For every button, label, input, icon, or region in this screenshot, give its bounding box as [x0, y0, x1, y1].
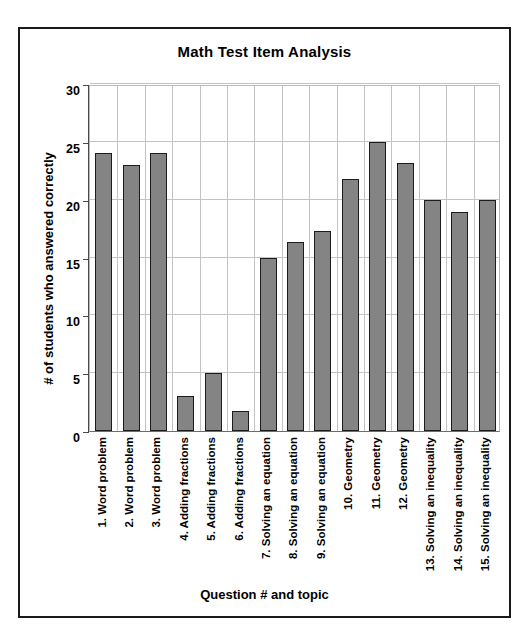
- vertical-gridline: [254, 86, 255, 431]
- vertical-gridline: [282, 86, 283, 431]
- bar: [342, 179, 359, 431]
- chart-figure: Math Test Item Analysis # of students wh…: [18, 27, 511, 618]
- x-tick-label: 3. Word problem: [152, 437, 164, 528]
- x-tick: 10. Geometry: [336, 437, 363, 607]
- bar: [451, 212, 468, 431]
- vertical-gridline: [227, 86, 228, 431]
- x-tick: 1. Word problem: [89, 437, 116, 607]
- bar: [260, 258, 277, 432]
- x-tick: 8. Solving an equation: [281, 437, 308, 607]
- vertical-gridline: [391, 86, 392, 431]
- vertical-gridline: [309, 86, 310, 431]
- x-tick-label: 14. Solving an inequality: [453, 437, 465, 571]
- x-tick: 2. Word problem: [116, 437, 143, 607]
- plot-area: [89, 85, 500, 432]
- vertical-gridline: [364, 86, 365, 431]
- x-tick-label: 8. Solving an equation: [289, 437, 301, 559]
- bar: [369, 142, 386, 431]
- x-tick: 15. Solving an inequality: [473, 437, 500, 607]
- vertical-gridline: [172, 86, 173, 431]
- y-tick-label: 0: [40, 432, 80, 445]
- y-tick-mark: [83, 432, 89, 433]
- bar: [232, 411, 249, 431]
- x-tick-label: 13. Solving an inequality: [426, 437, 438, 571]
- bar: [205, 373, 222, 431]
- y-tick-label: 5: [40, 374, 80, 387]
- x-tick-label: 10. Geometry: [344, 437, 356, 510]
- x-tick: 13. Solving an inequality: [418, 437, 445, 607]
- y-tick-label: 25: [40, 143, 80, 156]
- x-tick-label: 7. Solving an equation: [261, 437, 273, 559]
- x-tick: 9. Solving an equation: [308, 437, 335, 607]
- x-tick-label: 9. Solving an equation: [316, 437, 328, 559]
- y-tick-label: 30: [40, 85, 80, 98]
- bar: [314, 231, 331, 431]
- x-tick: 3. Word problem: [144, 437, 171, 607]
- gridline: [90, 141, 499, 142]
- y-tick-label: 10: [40, 316, 80, 329]
- x-tick-label: 15. Solving an inequality: [481, 437, 493, 571]
- x-tick: 11. Geometry: [363, 437, 390, 607]
- x-tick: 14. Solving an inequality: [445, 437, 472, 607]
- x-tick-label: 1. Word problem: [97, 437, 109, 528]
- x-tick-label: 11. Geometry: [371, 437, 383, 509]
- bar: [479, 200, 496, 431]
- vertical-gridline: [474, 86, 475, 431]
- x-tick: 6. Adding fractions: [226, 437, 253, 607]
- bar: [177, 396, 194, 431]
- x-tick: 12. Geometry: [390, 437, 417, 607]
- vertical-gridline: [419, 86, 420, 431]
- x-tick-label: 5. Adding fractions: [207, 437, 219, 541]
- x-tick-label: 2. Word problem: [124, 437, 136, 528]
- bar: [150, 153, 167, 431]
- gridline: [90, 83, 499, 84]
- x-tick: 7. Solving an equation: [253, 437, 280, 607]
- bar: [424, 200, 441, 431]
- x-tick: 5. Adding fractions: [199, 437, 226, 607]
- x-axis-title: Question # and topic: [20, 587, 509, 602]
- x-tick: 4. Adding fractions: [171, 437, 198, 607]
- bar: [123, 165, 140, 431]
- bar: [95, 153, 112, 431]
- x-tick-label: 12. Geometry: [398, 437, 410, 510]
- vertical-gridline: [145, 86, 146, 431]
- vertical-gridline: [117, 86, 118, 431]
- vertical-gridline: [200, 86, 201, 431]
- vertical-gridline: [337, 86, 338, 431]
- vertical-gridline: [446, 86, 447, 431]
- bar: [397, 163, 414, 431]
- x-tick-label: 4. Adding fractions: [179, 437, 191, 541]
- y-tick-label: 15: [40, 259, 80, 272]
- x-tick-label: 6. Adding fractions: [234, 437, 246, 541]
- y-tick-label: 20: [40, 201, 80, 214]
- chart-title: Math Test Item Analysis: [20, 43, 509, 60]
- bar: [287, 242, 304, 431]
